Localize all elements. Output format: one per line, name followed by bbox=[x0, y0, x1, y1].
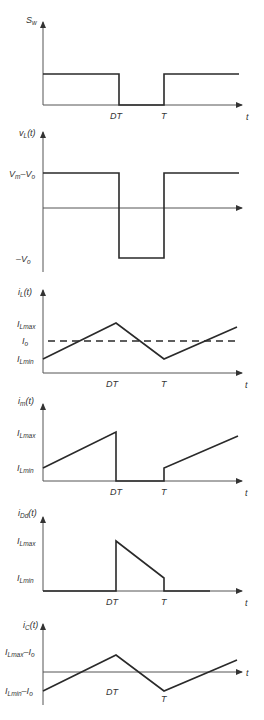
time-label-dt: DT bbox=[110, 111, 123, 121]
time-label-dt: DT bbox=[110, 487, 123, 497]
panel-capacitor-current: iC(t) ILmax–Io ILmin–Io DT T t bbox=[5, 620, 249, 705]
buck-converter-waveforms: Sw DT T t vL(t) Vm–Vo –Vo iL(t) ILmax Io… bbox=[0, 0, 264, 720]
time-label-t: T bbox=[161, 111, 168, 121]
time-label-t: T bbox=[161, 694, 168, 704]
time-label-t: T bbox=[161, 597, 168, 607]
level-ilmax-minus-io: ILmax–Io bbox=[5, 647, 35, 658]
ylabel-im: im(t) bbox=[18, 396, 34, 407]
axis-label-t: t bbox=[246, 112, 249, 122]
diode-current-waveform bbox=[43, 541, 210, 591]
ylabel-il: iL(t) bbox=[18, 287, 32, 298]
ylabel-ic: iC(t) bbox=[23, 620, 38, 631]
level-ilmin-minus-io: ILmin–Io bbox=[5, 686, 33, 697]
capacitor-current-waveform bbox=[43, 655, 237, 691]
axis-label-t: t bbox=[245, 488, 248, 498]
panel-input-current: im(t) ILmax ILmin DT T t bbox=[17, 396, 248, 498]
panel-inductor-voltage: vL(t) Vm–Vo –Vo bbox=[9, 128, 242, 272]
level-ilmax: ILmax bbox=[17, 536, 36, 547]
axis-label-t: t bbox=[245, 598, 248, 608]
axis-label-t: t bbox=[245, 380, 248, 390]
level-minus-vo: –Vo bbox=[15, 254, 31, 265]
level-io: Io bbox=[22, 336, 29, 347]
time-label-t: T bbox=[161, 487, 168, 497]
ylabel-vl: vL(t) bbox=[19, 128, 36, 139]
ylabel-sw: Sw bbox=[26, 15, 38, 26]
time-label-t: T bbox=[161, 379, 168, 389]
panel-inductor-current: iL(t) ILmax Io ILmin DT T t bbox=[17, 287, 248, 390]
panel-switch: Sw DT T t bbox=[26, 15, 249, 122]
level-ilmin: ILmin bbox=[17, 354, 34, 365]
axis-label-t: t bbox=[246, 668, 249, 678]
level-vm-minus-vo: Vm–Vo bbox=[9, 169, 35, 180]
time-label-dt: DT bbox=[106, 687, 119, 697]
input-current-waveform bbox=[43, 432, 238, 481]
level-ilmax: ILmax bbox=[17, 319, 36, 330]
level-ilmin: ILmin bbox=[17, 463, 34, 474]
level-ilmax: ILmax bbox=[17, 428, 36, 439]
time-label-dt: DT bbox=[106, 597, 119, 607]
switch-waveform bbox=[43, 74, 239, 105]
panel-diode-current: iDd(t) ILmax ILmin DT T t bbox=[17, 508, 248, 608]
time-label-dt: DT bbox=[106, 379, 119, 389]
inductor-voltage-waveform bbox=[43, 173, 239, 258]
level-ilmin: ILmin bbox=[17, 573, 34, 584]
ylabel-idd: iDd(t) bbox=[18, 508, 37, 519]
